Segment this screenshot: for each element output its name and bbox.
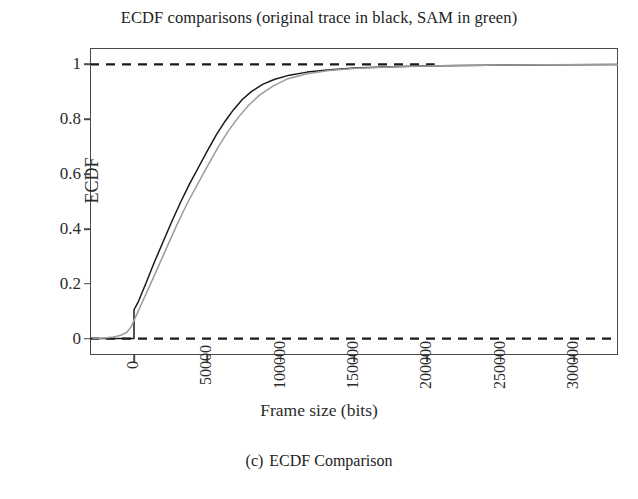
caption-index: (c) — [246, 452, 264, 469]
ecdf-figure: ECDF comparisons (original trace in blac… — [0, 0, 638, 499]
y-tick-mark — [84, 338, 91, 340]
y-tick-label: 0 — [73, 329, 82, 349]
figure-caption: (c)ECDF Comparison — [0, 452, 638, 470]
chart-title: ECDF comparisons (original trace in blac… — [0, 8, 638, 28]
y-tick-label: 0.2 — [60, 274, 81, 294]
y-tick-mark — [84, 64, 91, 66]
x-tick-label-text: 50000 — [197, 345, 215, 385]
plot-canvas — [90, 48, 618, 355]
y-tick-mark — [84, 228, 91, 230]
y-tick-mark — [84, 173, 91, 175]
y-tick-label: 1 — [73, 54, 82, 74]
y-tick-label: 0.8 — [60, 109, 81, 129]
x-tick-label-text: 150000 — [344, 341, 362, 389]
y-tick-label: 0.4 — [60, 219, 81, 239]
x-tick-label-text: 0 — [124, 361, 142, 369]
series-line-SAM — [93, 64, 618, 338]
x-tick-label-text: 100000 — [271, 341, 289, 389]
y-axis-label: ECDF — [82, 121, 103, 241]
y-tick-mark — [84, 118, 91, 120]
y-tick-mark — [84, 283, 91, 285]
x-axis-label: Frame size (bits) — [0, 400, 638, 421]
x-tick-label-text: 250000 — [491, 341, 509, 389]
plot-area: ECDF 00.20.40.60.81 05000010000015000020… — [90, 48, 618, 355]
x-tick-label-text: 300000 — [564, 341, 582, 389]
series-line-original-trace — [93, 64, 618, 338]
reference-lines — [90, 64, 618, 338]
caption-text: ECDF Comparison — [269, 452, 392, 469]
x-tick-label: 0 — [134, 365, 152, 373]
series-lines — [93, 64, 618, 338]
y-tick-label: 0.6 — [60, 164, 81, 184]
x-tick-label: 50000 — [207, 365, 225, 405]
x-tick-label-text: 200000 — [417, 341, 435, 389]
